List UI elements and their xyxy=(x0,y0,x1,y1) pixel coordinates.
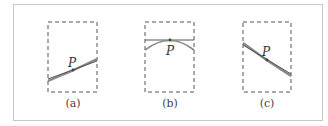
point-label-b: P xyxy=(165,44,175,58)
point-b xyxy=(169,39,172,42)
point-c xyxy=(266,59,269,62)
caption-a: (a) xyxy=(65,97,80,110)
figure-canvas: P (a) P (b) P (c) xyxy=(0,0,328,126)
caption-b: (b) xyxy=(162,97,178,110)
point-label-a: P xyxy=(67,56,77,70)
caption-c: (c) xyxy=(260,97,275,110)
point-label-c: P xyxy=(261,45,271,59)
panel-a: P (a) xyxy=(48,22,97,110)
panel-c: P (c) xyxy=(243,22,291,110)
panel-b: P (b) xyxy=(145,22,194,110)
